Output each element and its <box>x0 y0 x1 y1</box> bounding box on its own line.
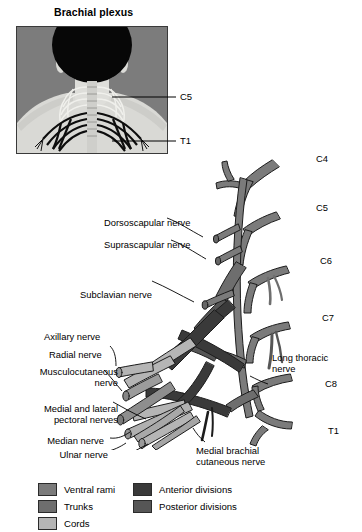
legend-item-ventral-rami: Ventral rami <box>38 481 115 497</box>
figure-title: Brachial plexus <box>54 6 133 18</box>
legend-item-trunks: Trunks <box>38 498 115 514</box>
brachial-plexus-photo-inset <box>16 26 168 154</box>
label-long-thoracic-nerve-line2: nerve <box>272 364 295 375</box>
figure-canvas: Brachial plexus <box>0 0 362 532</box>
root-label-c7: C7 <box>322 313 334 324</box>
legend: Ventral rami Trunks Cords Anterior divis… <box>38 481 338 529</box>
legend-swatch-trunks <box>38 500 57 513</box>
label-medial-brachial-cutaneous-line1: Medial brachial <box>196 446 259 457</box>
legend-label-ventral-rami: Ventral rami <box>64 484 115 495</box>
legend-column-left: Ventral rami Trunks Cords <box>38 481 115 532</box>
inset-label-c5: C5 <box>180 91 192 102</box>
root-label-t1: T1 <box>328 426 339 437</box>
label-pectoral-nerves-line1: Medial and lateral <box>14 404 118 415</box>
legend-label-anterior-divisions: Anterior divisions <box>159 484 232 495</box>
label-suprascapular-nerve: Suprascapular nerve <box>104 240 191 251</box>
label-subclavian-nerve: Subclavian nerve <box>80 290 152 301</box>
root-label-c6: C6 <box>320 256 332 267</box>
legend-label-cords: Cords <box>64 518 90 529</box>
label-medial-brachial-cutaneous-line2: cutaneous nerve <box>196 457 265 468</box>
label-pectoral-nerves-line2: pectoral nerves <box>14 415 118 426</box>
legend-swatch-anterior-divisions <box>133 483 152 496</box>
legend-label-trunks: Trunks <box>64 501 93 512</box>
label-musculocutaneous-nerve-line2: nerve <box>18 378 118 389</box>
legend-item-anterior-divisions: Anterior divisions <box>133 481 237 497</box>
legend-item-cords: Cords <box>38 515 115 531</box>
label-ulnar-nerve: Ulnar nerve <box>30 450 108 461</box>
legend-swatch-cords <box>38 517 57 530</box>
label-median-nerve: Median nerve <box>18 436 104 447</box>
legend-swatch-ventral-rami <box>38 483 57 496</box>
label-long-thoracic-nerve-line1: Long thoracic <box>272 353 328 364</box>
legend-swatch-posterior-divisions <box>133 500 152 513</box>
label-musculocutaneous-nerve-line1: Musculocutaneous <box>18 367 118 378</box>
legend-item-posterior-divisions: Posterior divisions <box>133 498 237 514</box>
inset-label-t1: T1 <box>180 135 191 146</box>
root-label-c8: C8 <box>325 379 337 390</box>
root-label-c5: C5 <box>316 203 328 214</box>
legend-label-posterior-divisions: Posterior divisions <box>159 501 237 512</box>
legend-column-right: Anterior divisions Posterior divisions <box>133 481 237 515</box>
root-label-c4: C4 <box>316 154 328 165</box>
label-axillary-nerve: Axillary nerve <box>44 332 100 343</box>
inset-illustration <box>17 27 167 153</box>
label-radial-nerve: Radial nerve <box>49 350 102 361</box>
label-dorsoscapular-nerve: Dorsoscapular nerve <box>104 218 191 229</box>
